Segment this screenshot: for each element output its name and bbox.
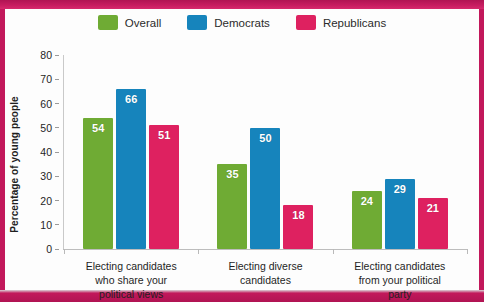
legend-swatch-icon bbox=[98, 15, 118, 30]
bar-value-label: 50 bbox=[250, 132, 280, 144]
y-axis-tick: 20 bbox=[36, 195, 59, 207]
y-axis-tick: 30 bbox=[36, 170, 59, 182]
y-axis-tick: 60 bbox=[36, 98, 59, 110]
bar-value-label: 54 bbox=[83, 122, 113, 134]
x-axis-category-label-line: Electing diverse bbox=[201, 259, 329, 273]
y-axis-tick-mark bbox=[55, 224, 59, 225]
y-axis-tick-label: 30 bbox=[36, 170, 52, 182]
bar-groups: 546651355018242921 bbox=[64, 55, 467, 249]
legend-item-republicans[interactable]: Republicans bbox=[296, 15, 386, 30]
x-axis-category-label-line: party bbox=[336, 287, 464, 301]
legend-swatch-icon bbox=[296, 15, 316, 30]
x-axis-group-separator bbox=[467, 249, 468, 254]
y-axis-tick-mark bbox=[55, 55, 59, 56]
x-axis-line bbox=[63, 249, 467, 250]
bar-value-label: 35 bbox=[217, 168, 247, 180]
y-axis-tick-mark bbox=[55, 152, 59, 153]
bar-democrats[interactable]: 50 bbox=[250, 128, 280, 249]
bar-value-label: 21 bbox=[418, 202, 448, 214]
chart-legend: OverallDemocratsRepublicans bbox=[5, 15, 479, 30]
bar-overall[interactable]: 54 bbox=[83, 118, 113, 249]
x-axis-category-label-line: Electing candidates bbox=[336, 259, 464, 273]
legend-swatch-icon bbox=[187, 15, 207, 30]
legend-label: Democrats bbox=[214, 17, 270, 29]
figure-frame: OverallDemocratsRepublicans Percentage o… bbox=[0, 0, 484, 302]
y-axis-tick: 80 bbox=[36, 49, 59, 61]
bar-value-label: 29 bbox=[385, 183, 415, 195]
y-axis-tick-label: 70 bbox=[36, 73, 52, 85]
y-axis-tick-mark bbox=[55, 249, 59, 250]
y-axis-ticks: 80706050403020100 bbox=[23, 55, 59, 249]
x-axis-category-label-line: Electing candidates bbox=[67, 259, 195, 273]
bar-democrats[interactable]: 66 bbox=[116, 89, 146, 249]
legend-label: Overall bbox=[125, 17, 161, 29]
y-axis-title-text: Percentage of young people bbox=[9, 96, 20, 233]
y-axis-tick-mark bbox=[55, 176, 59, 177]
bar-republicans[interactable]: 21 bbox=[418, 198, 448, 249]
bar-democrats[interactable]: 29 bbox=[385, 179, 415, 249]
bar-group: 546651 bbox=[64, 55, 198, 249]
bar-overall[interactable]: 24 bbox=[352, 191, 382, 249]
bar-value-label: 51 bbox=[149, 129, 179, 141]
x-axis-category-labels: Electing candidateswho share yourpolitic… bbox=[64, 259, 467, 301]
bar-value-label: 24 bbox=[352, 195, 382, 207]
y-axis-tick: 10 bbox=[36, 219, 59, 231]
bar-group: 355018 bbox=[198, 55, 332, 249]
y-axis-tick-label: 50 bbox=[36, 122, 52, 134]
bar-republicans[interactable]: 51 bbox=[149, 125, 179, 249]
y-axis-tick-mark bbox=[55, 103, 59, 104]
y-axis-tick: 0 bbox=[36, 243, 59, 255]
x-axis-group-separator bbox=[333, 249, 334, 254]
y-axis-title: Percentage of young people bbox=[7, 73, 21, 255]
y-axis-tick-label: 10 bbox=[36, 219, 52, 231]
bar-chart: OverallDemocratsRepublicans Percentage o… bbox=[5, 9, 479, 290]
x-axis-group-separator bbox=[198, 249, 199, 254]
legend-label: Republicans bbox=[323, 17, 386, 29]
x-axis-category-label-line: political views bbox=[67, 287, 195, 301]
y-axis-tick-mark bbox=[55, 127, 59, 128]
y-axis-tick-mark bbox=[55, 79, 59, 80]
legend-item-overall[interactable]: Overall bbox=[98, 15, 161, 30]
bar-overall[interactable]: 35 bbox=[217, 164, 247, 249]
bar-group: 242921 bbox=[333, 55, 467, 249]
x-axis-category-label-line: from your political bbox=[336, 273, 464, 287]
y-axis-tick-label: 80 bbox=[36, 49, 52, 61]
x-axis-category-label-line: who share your bbox=[67, 273, 195, 287]
y-axis-tick-label: 0 bbox=[36, 243, 52, 255]
y-axis-tick-label: 60 bbox=[36, 98, 52, 110]
bar-value-label: 66 bbox=[116, 93, 146, 105]
y-axis-tick-label: 20 bbox=[36, 195, 52, 207]
y-axis-tick-label: 40 bbox=[36, 146, 52, 158]
y-axis-tick: 40 bbox=[36, 146, 59, 158]
x-axis-category-label: Electing diversecandidates bbox=[198, 259, 332, 301]
x-axis-category-label-line: candidates bbox=[201, 273, 329, 287]
bar-value-label: 18 bbox=[283, 209, 313, 221]
plot-area: Percentage of young people 8070605040302… bbox=[5, 45, 479, 290]
legend-item-democrats[interactable]: Democrats bbox=[187, 15, 270, 30]
x-axis-category-label: Electing candidateswho share yourpolitic… bbox=[64, 259, 198, 301]
x-axis-group-separator bbox=[64, 249, 65, 254]
y-axis-tick-mark bbox=[55, 200, 59, 201]
y-axis-tick: 50 bbox=[36, 122, 59, 134]
y-axis-tick: 70 bbox=[36, 73, 59, 85]
x-axis-category-label: Electing candidatesfrom your politicalpa… bbox=[333, 259, 467, 301]
bar-republicans[interactable]: 18 bbox=[283, 205, 313, 249]
